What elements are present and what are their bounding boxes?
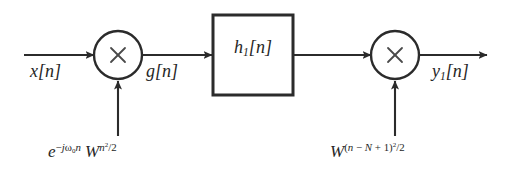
right-exp-div: /2 <box>396 141 404 153</box>
filter-block-label: h1[n] <box>213 38 293 56</box>
output-index: n <box>453 61 462 81</box>
input-index: n <box>45 61 54 81</box>
output-symbol: y <box>432 61 440 81</box>
output-bracket-close: ] <box>462 61 469 81</box>
multiplier-1-node <box>94 31 142 79</box>
intermediate-index: n <box>162 61 171 81</box>
input-symbol: x <box>30 61 38 81</box>
filter-symbol: h <box>234 37 243 57</box>
chirp-transform-block-diagram: x[n] g[n] h1[n] y1[n] e−jω0n Wn2/2 W(n −… <box>0 0 509 177</box>
intermediate-signal-label: g[n] <box>146 62 178 80</box>
right-chirp-expression: W(n − N + 1)2/2 <box>330 143 405 160</box>
intermediate-bracket-close: ] <box>171 61 178 81</box>
left-base-e: e <box>48 142 56 161</box>
filter-bracket-close: ] <box>265 37 272 57</box>
left-exponent-2: n2/2 <box>99 141 116 153</box>
multiplier-2-node <box>371 31 419 79</box>
filter-bracket-open: [ <box>249 37 256 57</box>
right-exponent: (n − N + 1)2/2 <box>344 141 405 153</box>
input-bracket-close: ] <box>54 61 61 81</box>
right-base-W: W <box>330 142 344 161</box>
left-chirp-expression: e−jω0n Wn2/2 <box>48 143 117 160</box>
left-exp-omega: ω <box>65 141 72 153</box>
output-bracket-open: [ <box>446 61 453 81</box>
output-signal-label: y1[n] <box>432 62 469 80</box>
filter-index: n <box>256 37 265 57</box>
input-signal-label: x[n] <box>30 62 61 80</box>
input-bracket-open: [ <box>38 61 45 81</box>
right-exp-N: N <box>365 141 372 153</box>
intermediate-bracket-open: [ <box>155 61 162 81</box>
intermediate-symbol: g <box>146 61 155 81</box>
left-base-W: W <box>85 142 99 161</box>
left-exp2-div: /2 <box>108 141 116 153</box>
left-exponent-1: −jω0n <box>56 141 81 153</box>
